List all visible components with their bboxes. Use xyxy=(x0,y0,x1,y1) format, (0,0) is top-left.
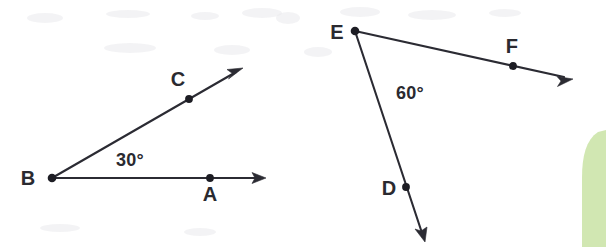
angle-figure-canvas: B A C 30° E F D 60° xyxy=(0,0,606,247)
angle-abc-measure-label: 30° xyxy=(116,150,144,170)
point-f-label: F xyxy=(506,35,518,57)
point-d-dot xyxy=(402,183,410,191)
angle-def-halftone-texture xyxy=(355,31,573,242)
point-b-dot xyxy=(48,174,57,183)
green-page-tab xyxy=(582,130,606,247)
point-f-dot xyxy=(509,62,517,70)
point-b-label: B xyxy=(21,167,36,189)
point-c-dot xyxy=(185,95,193,103)
angle-def-group: E F D 60° xyxy=(330,21,573,242)
angle-diagram-svg: B A C 30° E F D 60° xyxy=(0,0,606,247)
point-c-label: C xyxy=(171,68,186,90)
point-a-label: A xyxy=(203,183,218,205)
point-d-label: D xyxy=(382,177,397,199)
angle-def-measure-label: 60° xyxy=(396,83,424,103)
point-e-dot xyxy=(351,27,360,36)
point-e-label: E xyxy=(330,21,344,43)
point-a-dot xyxy=(206,174,214,182)
angle-abc-group: B A C 30° xyxy=(21,68,266,205)
angle-abc-halftone-texture xyxy=(52,68,266,178)
